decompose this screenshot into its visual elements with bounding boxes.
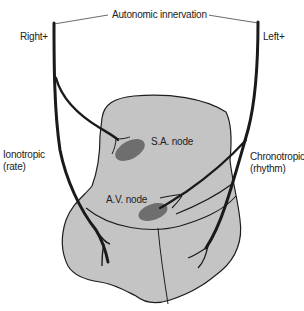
chronotropic-label-line1: Chronotropic (250, 151, 304, 163)
title-leader-left (54, 15, 108, 24)
av-node-label: A.V. node (106, 194, 147, 206)
ionotropic-label: Ionotropic (rate) (3, 149, 45, 173)
chronotropic-label: Chronotropic (rhythm) (250, 151, 304, 175)
diagram-title: Autonomic innervation (110, 9, 209, 21)
title-leader-right (208, 15, 258, 23)
left-nerve-label: Left+ (263, 31, 285, 43)
right-nerve-label: Right+ (20, 31, 48, 43)
sa-node-label: S.A. node (151, 136, 193, 148)
ionotropic-label-line2: (rate) (3, 161, 45, 173)
ionotropic-label-line1: Ionotropic (3, 149, 45, 161)
chronotropic-label-line2: (rhythm) (250, 163, 304, 175)
heart-outline (62, 95, 240, 302)
